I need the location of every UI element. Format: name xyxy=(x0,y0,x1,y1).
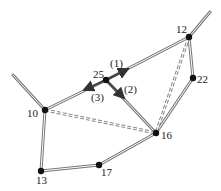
arrow-1 xyxy=(106,69,128,80)
node-16 xyxy=(153,130,159,136)
node-10 xyxy=(42,107,48,113)
node-label-17: 17 xyxy=(101,167,112,178)
node-22 xyxy=(190,75,196,81)
node-label-13: 13 xyxy=(36,175,47,186)
node-label-16: 16 xyxy=(161,130,172,141)
network-diagram xyxy=(0,0,221,191)
arrow-label-1: (1) xyxy=(110,58,123,69)
arrow-2 xyxy=(106,80,124,98)
double-edges xyxy=(13,12,210,171)
node-label-10: 10 xyxy=(27,108,38,119)
arrow-label-3: (3) xyxy=(91,92,104,103)
node-label-12: 12 xyxy=(176,24,187,35)
arrow-3 xyxy=(84,80,106,90)
nodes xyxy=(38,34,196,174)
node-label-22: 22 xyxy=(197,74,208,85)
node-label-25: 25 xyxy=(93,69,104,80)
arrow-label-2: (2) xyxy=(124,84,137,95)
